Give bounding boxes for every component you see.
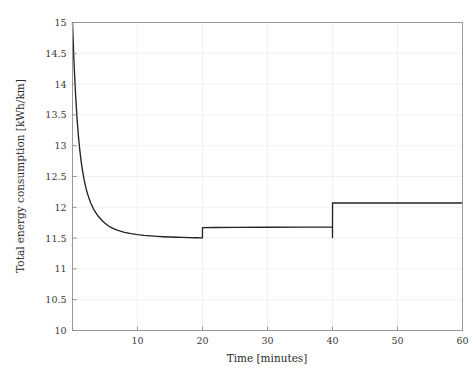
x-tick-label: 60	[456, 335, 468, 346]
y-tick-label: 15	[54, 17, 66, 28]
chart-svg: 102030405060 1010.51111.51212.51313.5141…	[0, 0, 473, 380]
y-tick-label: 13.5	[45, 109, 66, 120]
y-tick-label: 13	[54, 140, 66, 151]
y-tick-label: 14.5	[45, 48, 66, 59]
y-axis-tick-labels-group: 1010.51111.51212.51313.51414.515	[45, 17, 66, 336]
x-tick-label: 50	[391, 335, 403, 346]
y-tick-label: 11	[54, 263, 66, 274]
x-tick-label: 20	[196, 335, 208, 346]
x-axis-title: Time [minutes]	[227, 352, 308, 364]
x-axis-ticks-group	[73, 327, 463, 331]
y-tick-label: 10	[54, 325, 66, 336]
y-tick-label: 12.5	[45, 171, 66, 182]
chart-page: 102030405060 1010.51111.51212.51313.5141…	[0, 0, 473, 380]
y-axis-title: Total energy consumption [kWh/km]	[14, 79, 26, 273]
y-tick-label: 14	[54, 79, 66, 90]
x-tick-label: 10	[131, 335, 143, 346]
energy-consumption-line-chart: 102030405060 1010.51111.51212.51313.5141…	[0, 0, 473, 380]
x-tick-label: 30	[261, 335, 273, 346]
x-axis-tick-labels-group: 102030405060	[131, 335, 468, 346]
gridlines-group	[73, 23, 463, 331]
x-tick-label: 40	[326, 335, 338, 346]
y-tick-label: 10.5	[45, 294, 66, 305]
y-tick-label: 12	[54, 202, 66, 213]
y-tick-label: 11.5	[45, 233, 66, 244]
